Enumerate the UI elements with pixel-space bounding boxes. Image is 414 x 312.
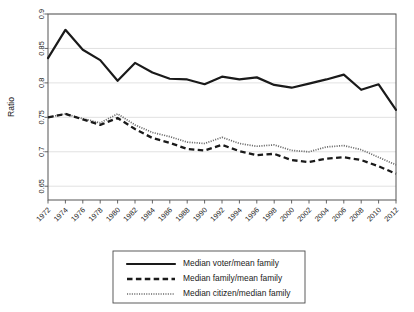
x-tick-label: 2000: [278, 206, 296, 224]
x-tick-label: 1972: [34, 206, 52, 224]
x-tick-label: 1982: [121, 206, 139, 224]
y-tick-label: 0.75: [37, 110, 46, 124]
x-tick-label: 1986: [156, 206, 174, 224]
x-tick-label: 2006: [330, 206, 348, 224]
legend-label: Median voter/mean family: [183, 258, 280, 268]
y-tick-label: 0.8: [37, 78, 46, 88]
chart-figure: 0.650.70.750.80.850.9 197219741976197819…: [0, 0, 414, 312]
x-tick-label: 1988: [174, 206, 192, 224]
line-chart: 0.650.70.750.80.850.9 197219741976197819…: [0, 0, 414, 312]
y-axis-title: Ratio: [6, 97, 16, 117]
x-tick-label: 1984: [139, 206, 157, 224]
x-tick-label: 2008: [348, 206, 366, 224]
y-tick-label: 0.65: [37, 179, 46, 193]
chart-legend: Median voter/mean familyMedian family/me…: [113, 251, 305, 303]
x-tick-label: 1998: [261, 206, 279, 224]
x-tick-label: 2002: [295, 206, 313, 224]
x-tick-label: 1980: [104, 206, 122, 224]
plot-background: [48, 14, 396, 200]
x-tick-label: 2012: [382, 206, 400, 224]
x-axis-ticks: 1972197419761978198019821984198619881990…: [34, 200, 400, 224]
y-axis-ticks: 0.650.70.750.80.850.9: [37, 9, 48, 194]
x-tick-label: 1994: [226, 206, 244, 224]
y-tick-label: 0.7: [37, 147, 46, 157]
x-tick-label: 1978: [87, 206, 105, 224]
y-tick-label: 0.9: [37, 9, 46, 19]
x-tick-label: 1976: [69, 206, 87, 224]
x-tick-label: 1992: [208, 206, 226, 224]
x-tick-label: 1974: [52, 206, 70, 224]
x-tick-label: 1990: [191, 206, 209, 224]
legend-label: Median family/mean family: [183, 273, 283, 283]
x-tick-label: 2004: [313, 206, 331, 224]
x-tick-label: 1996: [243, 206, 261, 224]
y-tick-label: 0.85: [37, 41, 46, 55]
legend-label: Median citizen/median family: [183, 288, 291, 298]
x-tick-label: 2010: [365, 206, 383, 224]
